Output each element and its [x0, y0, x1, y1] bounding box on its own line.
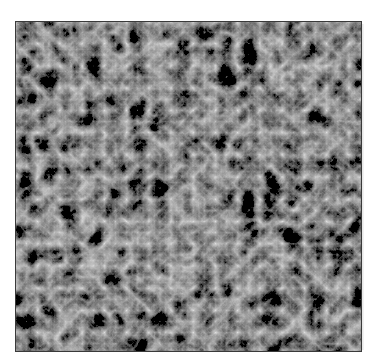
- frame-edge-shadow: [362, 24, 364, 350]
- image-canvas: Grayscale turbulent noise texture in a t…: [0, 0, 374, 364]
- texture-frame: [15, 21, 362, 352]
- noise-texture: [16, 22, 361, 351]
